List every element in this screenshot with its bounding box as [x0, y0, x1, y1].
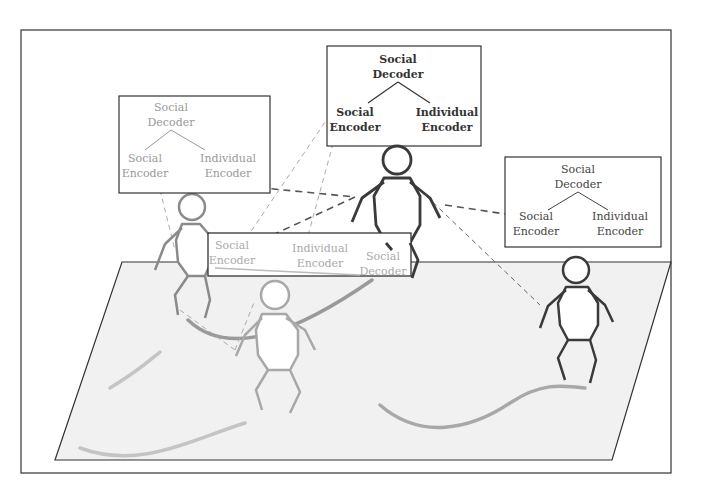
- box-middle-individual-encoder-line1: Individual: [292, 242, 348, 255]
- box-middle-social-encoder-line2: Encoder: [209, 254, 256, 267]
- box-left-decoder-line2: Decoder: [148, 116, 196, 129]
- box-right-decoder-line2: Decoder: [555, 178, 603, 191]
- box-left-individual-encoder-line2: Encoder: [205, 167, 252, 180]
- box-top-social-encoder-line2: Encoder: [330, 121, 381, 134]
- box-middle-individual-encoder-line2: Encoder: [297, 257, 344, 270]
- box-right-individual-encoder-line2: Encoder: [597, 225, 644, 238]
- box-right-social-encoder-line2: Encoder: [513, 225, 560, 238]
- box-left-individual-encoder-line1: Individual: [200, 152, 256, 165]
- box-top-individual-encoder-line1: Individual: [416, 106, 479, 119]
- box-right-individual-encoder-line1: Individual: [592, 210, 648, 223]
- box-middle-social-decoder-line1: Social: [366, 250, 400, 263]
- box-left-social-encoder-line2: Encoder: [122, 167, 169, 180]
- box-right: Social Decoder Social Encoder Individual…: [505, 157, 661, 247]
- box-left-decoder-line1: Social: [154, 101, 188, 114]
- box-left: Social Decoder Social Encoder Individual…: [119, 96, 270, 193]
- box-top: Social Decoder Social Encoder Individual…: [327, 46, 481, 146]
- box-middle-social-decoder-line2: Decoder: [360, 265, 408, 278]
- box-top-decoder-line1: Social: [379, 53, 416, 66]
- box-left-social-encoder-line1: Social: [128, 152, 162, 165]
- box-middle: Social Encoder Individual Encoder Social…: [208, 233, 411, 278]
- box-middle-social-encoder-line1: Social: [215, 239, 249, 252]
- box-top-individual-encoder-line2: Encoder: [422, 121, 473, 134]
- social-encoder-decoder-diagram: Social Decoder Social Encoder Individual…: [0, 0, 709, 499]
- box-top-social-encoder-line1: Social: [336, 106, 373, 119]
- box-top-decoder-line2: Decoder: [372, 68, 423, 81]
- box-right-social-encoder-line1: Social: [519, 210, 553, 223]
- box-right-decoder-line1: Social: [561, 163, 595, 176]
